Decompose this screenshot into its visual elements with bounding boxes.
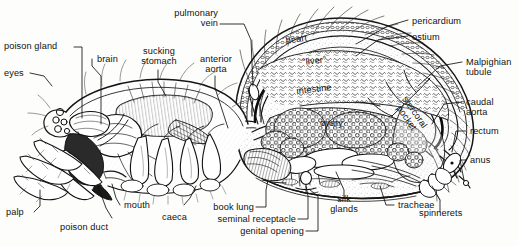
label-mouth: mouth <box>124 200 150 210</box>
label-pericardium: pericardium <box>412 16 461 26</box>
label-silk-glands: silk glands <box>326 194 362 215</box>
label-ovary: ovary <box>320 118 343 128</box>
label-malpighian-tubule: Malpighian tubule <box>466 57 511 78</box>
label-brain: brain <box>97 54 118 64</box>
label-poison-duct: poison duct <box>60 222 108 232</box>
label-intestine: intestine <box>296 82 332 96</box>
label-liver: “liver” <box>302 55 327 68</box>
label-layer: poison gland eyes brain sucking stomach … <box>0 0 519 246</box>
label-ostium: ostium <box>412 32 440 42</box>
label-pulmonary-vein: pulmonary vein <box>150 8 218 29</box>
label-book-lung: book lung <box>192 202 254 212</box>
label-anterior-aorta: anterior aorta <box>188 54 244 75</box>
label-caudal-aorta: caudal aorta <box>466 97 494 118</box>
label-poison-gland: poison gland <box>4 41 57 51</box>
label-seminal-receptacle: seminal receptacle <box>186 214 296 224</box>
label-anus: anus <box>470 155 490 165</box>
label-caeca: caeca <box>162 212 187 222</box>
label-stercoral-pocket: stercoral pocket <box>387 88 434 143</box>
label-heart: heart <box>285 33 308 47</box>
label-sucking-stomach: sucking stomach <box>128 46 190 67</box>
spider-anatomy-figure: poison gland eyes brain sucking stomach … <box>0 0 519 246</box>
label-rectum: rectum <box>470 126 499 136</box>
label-tracheae: tracheae <box>398 200 435 210</box>
label-palp: palp <box>6 207 24 217</box>
label-eyes: eyes <box>4 68 24 78</box>
label-genital-opening: genital opening <box>204 226 304 236</box>
